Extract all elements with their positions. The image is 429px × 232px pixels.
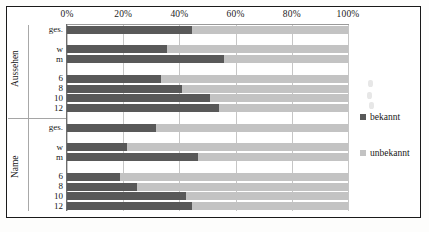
bar-segment-bekannt[interactable]	[67, 45, 167, 53]
category-label-m: m	[56, 153, 63, 162]
legend-label-unbekannt: unbekannt	[370, 148, 410, 158]
bar-row	[67, 85, 348, 93]
plot-area	[67, 25, 348, 211]
chart-legend: bekannt unbekannt	[360, 112, 426, 184]
category-label-w: w	[57, 45, 64, 54]
bar-segment-bekannt[interactable]	[67, 104, 219, 112]
bar-segment-bekannt[interactable]	[67, 192, 186, 200]
bar-segment-unbekannt[interactable]	[156, 124, 348, 132]
x-axis-tick-40: 40%	[170, 9, 188, 19]
category-label-6: 6	[59, 172, 64, 181]
bar-row	[67, 202, 348, 210]
legend-label-bekannt: bekannt	[370, 112, 400, 122]
category-label-8: 8	[59, 182, 64, 191]
category-label-6: 6	[59, 74, 64, 83]
category-label-m: m	[56, 55, 63, 64]
bar-segment-bekannt[interactable]	[67, 153, 198, 161]
bar-segment-unbekannt[interactable]	[198, 153, 348, 161]
legend-swatch-icon-bekannt	[360, 114, 366, 120]
bar-segment-unbekannt[interactable]	[161, 75, 348, 83]
bar-row	[67, 45, 348, 53]
bar-row	[67, 94, 348, 102]
legend-swatch-icon-unbekannt	[360, 150, 366, 156]
category-label-12: 12	[54, 202, 63, 211]
scan-artifact-marks	[366, 80, 382, 110]
bar-row	[67, 173, 348, 181]
bar-segment-unbekannt[interactable]	[167, 45, 348, 53]
bar-row	[67, 143, 348, 151]
category-label-ges: ges.	[49, 25, 63, 34]
bar-segment-unbekannt[interactable]	[186, 192, 348, 200]
bar-segment-bekannt[interactable]	[67, 183, 137, 191]
category-label-ges: ges.	[49, 123, 63, 132]
x-axis-tick-labels: 0%20%40%60%80%100%	[0, 9, 429, 23]
bar-row	[67, 75, 348, 83]
bar-segment-bekannt[interactable]	[67, 26, 192, 34]
gridline-100	[348, 25, 349, 211]
bar-row	[67, 124, 348, 132]
bar-segment-unbekannt[interactable]	[224, 55, 348, 63]
category-label-w: w	[57, 143, 64, 152]
bar-segment-unbekannt[interactable]	[192, 26, 348, 34]
bar-row	[67, 55, 348, 63]
bar-segment-bekannt[interactable]	[67, 94, 210, 102]
bar-row	[67, 183, 348, 191]
bar-segment-unbekannt[interactable]	[192, 202, 348, 210]
bar-segment-bekannt[interactable]	[67, 143, 127, 151]
x-axis-tick-80: 80%	[283, 9, 301, 19]
category-label-10: 10	[54, 94, 63, 103]
group-separator	[8, 118, 66, 119]
bar-segment-bekannt[interactable]	[67, 75, 161, 83]
bar-segment-bekannt[interactable]	[67, 124, 156, 132]
bar-row	[67, 26, 348, 34]
bar-segment-unbekannt[interactable]	[219, 104, 348, 112]
chart-screenshot: 0%20%40%60%80%100% AussehenName ges.wm68…	[0, 0, 429, 232]
category-label-8: 8	[59, 84, 64, 93]
legend-item-bekannt[interactable]: bekannt	[360, 112, 426, 122]
legend-item-unbekannt[interactable]: unbekannt	[360, 148, 426, 158]
category-label-12: 12	[54, 104, 63, 113]
bar-row	[67, 104, 348, 112]
x-axis-tick-0: 0%	[60, 9, 73, 19]
bar-segment-bekannt[interactable]	[67, 202, 192, 210]
bar-segment-unbekannt[interactable]	[137, 183, 348, 191]
bar-row	[67, 192, 348, 200]
bar-segment-unbekannt[interactable]	[182, 85, 348, 93]
bar-segment-unbekannt[interactable]	[120, 173, 348, 181]
x-axis-tick-100: 100%	[337, 9, 360, 19]
bar-segment-unbekannt[interactable]	[210, 94, 348, 102]
bar-row	[67, 153, 348, 161]
bar-segment-bekannt[interactable]	[67, 85, 182, 93]
x-axis-tick-60: 60%	[227, 9, 245, 19]
bar-segment-unbekannt[interactable]	[127, 143, 348, 151]
category-label-10: 10	[54, 192, 63, 201]
bar-segment-bekannt[interactable]	[67, 173, 120, 181]
bar-segment-bekannt[interactable]	[67, 55, 224, 63]
x-axis-tick-20: 20%	[114, 9, 132, 19]
